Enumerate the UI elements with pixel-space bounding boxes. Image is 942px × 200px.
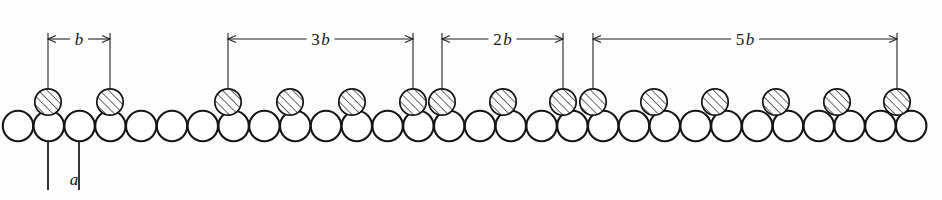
hatched-atom — [884, 89, 910, 115]
hatched-atom — [641, 89, 667, 115]
dimension-label-multiplier: 3 — [311, 30, 320, 49]
hatched-atom — [580, 89, 606, 115]
open-atom — [311, 111, 341, 141]
dimension-label-5b: 5b — [736, 30, 755, 49]
hatched-atom — [824, 89, 850, 115]
open-atom — [465, 111, 495, 141]
open-atom — [3, 111, 33, 141]
diagram-background — [0, 0, 942, 200]
hatched-atom — [35, 89, 61, 115]
hatched-atom — [763, 89, 789, 115]
dimension-label-multiplier: 5 — [736, 30, 745, 49]
open-atom — [218, 111, 248, 141]
hatched-atom — [339, 89, 365, 115]
diagram-canvas: b3b2b5ba — [0, 0, 942, 200]
open-atom — [372, 111, 402, 141]
hatched-atom — [215, 89, 241, 115]
hatched-atom — [277, 89, 303, 115]
open-atom — [619, 111, 649, 141]
dimension-label-symbol: b — [321, 30, 330, 49]
hatched-atom — [400, 89, 426, 115]
hatched-atom — [702, 89, 728, 115]
open-atom — [342, 111, 372, 141]
hatched-atom — [550, 89, 576, 115]
open-atom — [64, 111, 94, 141]
dimension-label-symbol: b — [746, 30, 755, 49]
open-atom — [865, 111, 895, 141]
atomic-row-diagram: b3b2b5ba — [0, 0, 942, 200]
dimension-label-2b: 2b — [493, 30, 512, 49]
dimension-label-symbol: b — [503, 30, 512, 49]
open-atom — [526, 111, 556, 141]
hatched-atom — [490, 89, 516, 115]
hatched-atom — [97, 89, 123, 115]
open-atom — [280, 111, 310, 141]
open-atom — [403, 111, 433, 141]
open-atom — [680, 111, 710, 141]
hatched-atom — [429, 89, 455, 115]
dimension-label-b: b — [75, 30, 84, 49]
open-atom — [188, 111, 218, 141]
dimension-label-symbol: b — [75, 30, 84, 49]
dimension-label-3b: 3b — [311, 30, 330, 49]
open-atom — [742, 111, 772, 141]
spacing-label-a: a — [70, 170, 79, 189]
open-atom — [249, 111, 279, 141]
dimension-label-multiplier: 2 — [493, 30, 502, 49]
open-atom — [126, 111, 156, 141]
open-atom — [157, 111, 187, 141]
open-atom — [804, 111, 834, 141]
